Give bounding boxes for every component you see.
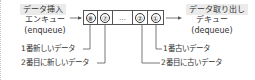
label-second-oldest-data: 2番目に古いデータ: [161, 58, 222, 68]
label-oldest-data: 1番古いデータ: [163, 44, 210, 54]
dequeue-arrow-icon: [178, 16, 182, 19]
label-second-newest-data: 2番目に新しいデータ: [21, 58, 89, 68]
connector-lines: [0, 0, 255, 80]
enqueue-arrow-icon: [78, 16, 82, 19]
label-newest-data: 1番新しいデータ: [21, 44, 75, 54]
